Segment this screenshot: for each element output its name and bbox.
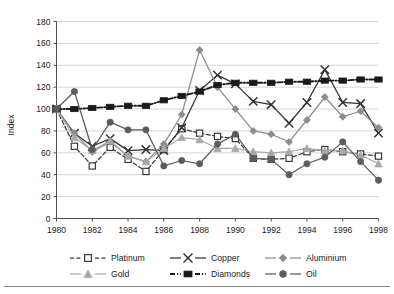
x-tick-label: 1988 <box>190 225 209 235</box>
y-tick-label: 100 <box>36 104 50 114</box>
x-tick-label: 1994 <box>297 225 316 235</box>
chart-figure: 020406080100120140160180 198019821984198… <box>0 0 394 294</box>
x-tick-label: 1998 <box>369 225 388 235</box>
data-point-marker <box>280 271 287 278</box>
x-tick-label: 1980 <box>47 225 66 235</box>
data-point-marker <box>268 156 274 162</box>
data-point-marker <box>358 158 364 164</box>
x-tick-label: 1992 <box>262 225 281 235</box>
legend-label: Platinum <box>111 253 145 263</box>
data-point-marker <box>178 93 185 98</box>
data-point-marker <box>179 157 185 163</box>
data-point-marker <box>124 103 131 108</box>
y-tick-label: 160 <box>36 38 50 48</box>
data-point-marker <box>161 163 167 169</box>
data-point-marker <box>340 139 346 145</box>
index-line-chart: 020406080100120140160180 198019821984198… <box>0 0 394 294</box>
data-point-marker <box>267 80 274 85</box>
y-axis-label: Index <box>6 114 16 136</box>
data-point-marker <box>214 133 220 139</box>
data-point-marker <box>196 89 203 94</box>
legend-label: Gold <box>111 269 130 279</box>
y-tick-label: 60 <box>41 148 51 158</box>
data-point-marker <box>375 77 382 82</box>
data-point-marker <box>339 78 346 83</box>
data-point-marker <box>303 79 310 84</box>
y-tick-label: 40 <box>41 170 51 180</box>
data-point-marker <box>322 154 328 160</box>
data-point-marker <box>89 146 95 152</box>
data-point-marker <box>321 78 328 83</box>
data-point-marker <box>89 105 96 110</box>
data-point-marker <box>304 161 310 167</box>
data-point-marker <box>71 143 77 149</box>
y-tick-label: 0 <box>46 214 51 224</box>
x-tick-label: 1996 <box>333 225 352 235</box>
data-point-marker <box>71 106 78 111</box>
legend-label: Oil <box>306 269 317 279</box>
legend-label: Copper <box>211 253 240 263</box>
data-point-marker <box>250 80 257 85</box>
data-point-marker <box>142 103 149 108</box>
data-point-marker <box>375 153 381 159</box>
data-point-marker <box>214 82 221 87</box>
data-point-marker <box>357 77 364 82</box>
data-point-marker <box>85 255 92 262</box>
y-tick-label: 120 <box>36 82 50 92</box>
legend-label: Aluminium <box>306 253 347 263</box>
data-point-marker <box>143 127 149 133</box>
data-point-marker <box>106 104 113 109</box>
data-point-marker <box>53 106 59 112</box>
data-point-marker <box>214 141 220 147</box>
data-point-marker <box>160 98 167 103</box>
x-tick-label: 1986 <box>154 225 173 235</box>
data-point-marker <box>197 161 203 167</box>
chart-background <box>0 0 394 294</box>
y-tick-label: 140 <box>36 60 50 70</box>
data-point-marker <box>184 271 192 277</box>
data-point-marker <box>143 168 149 174</box>
data-point-marker <box>375 177 381 183</box>
x-tick-label: 1982 <box>83 225 102 235</box>
y-tick-label: 180 <box>36 17 50 27</box>
data-point-marker <box>232 80 239 85</box>
data-point-marker <box>285 79 292 84</box>
y-tick-label: 20 <box>41 192 51 202</box>
data-point-marker <box>107 119 113 125</box>
legend-label: Diamonds <box>211 269 251 279</box>
data-point-marker <box>71 88 77 94</box>
data-point-marker <box>89 163 95 169</box>
x-tick-label: 1984 <box>119 225 138 235</box>
y-tick-label: 80 <box>41 126 51 136</box>
data-point-marker <box>232 131 238 137</box>
data-point-marker <box>125 127 131 133</box>
x-tick-label: 1990 <box>226 225 245 235</box>
data-point-marker <box>286 172 292 178</box>
data-point-marker <box>286 155 292 161</box>
data-point-marker <box>250 155 256 161</box>
